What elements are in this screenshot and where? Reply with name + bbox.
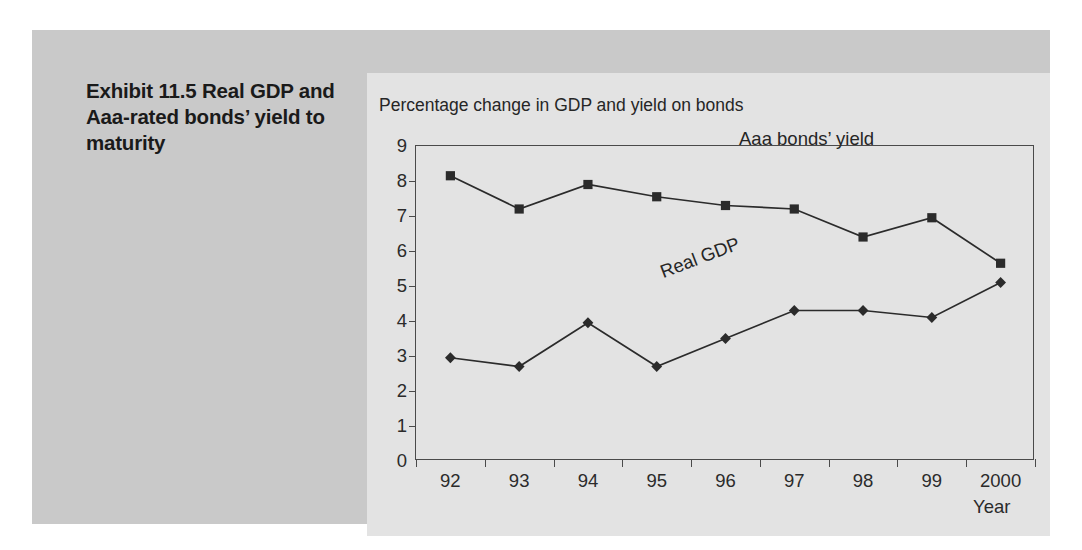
y-tick-label: 1 — [397, 417, 407, 436]
y-tick-mark — [409, 356, 416, 357]
data-point-marker — [926, 312, 937, 323]
x-tick-label: 99 — [922, 470, 943, 492]
exhibit-caption: Exhibit 11.5 Real GDP and Aaa-rated bond… — [86, 78, 351, 156]
data-point-marker — [858, 305, 869, 316]
y-tick-mark — [409, 251, 416, 252]
data-point-marker — [514, 361, 525, 372]
y-tick-mark — [409, 181, 416, 182]
x-axis-title: Year — [973, 496, 1010, 518]
data-point-marker — [720, 333, 731, 344]
data-point-marker — [995, 277, 1006, 288]
y-tick-mark — [409, 216, 416, 217]
data-point-marker — [446, 171, 455, 180]
series-real-gdp — [445, 277, 1006, 372]
data-point-marker — [789, 305, 800, 316]
chart-title: Percentage change in GDP and yield on bo… — [379, 95, 744, 116]
y-tick-label: 8 — [397, 172, 407, 191]
data-point-marker — [927, 213, 936, 222]
x-tick-mark — [829, 459, 830, 467]
x-tick-mark — [897, 459, 898, 467]
y-tick-label: 3 — [397, 347, 407, 366]
y-tick-label: 6 — [397, 242, 407, 261]
x-tick-mark — [1035, 459, 1036, 467]
x-tick-label: 96 — [715, 470, 736, 492]
x-tick-mark — [966, 459, 967, 467]
x-tick-mark — [691, 459, 692, 467]
x-tick-label: 93 — [509, 470, 530, 492]
data-point-marker — [445, 352, 456, 363]
y-tick-label: 0 — [397, 452, 407, 471]
series-label-aaa-bonds-yield: Aaa bonds’ yield — [739, 128, 874, 150]
x-tick-mark — [622, 459, 623, 467]
x-tick-label: 94 — [578, 470, 599, 492]
chart-panel: Percentage change in GDP and yield on bo… — [367, 73, 1050, 536]
data-point-marker — [583, 317, 594, 328]
plot-svg — [416, 146, 1035, 461]
y-tick-mark — [409, 321, 416, 322]
series-line — [450, 283, 1000, 367]
exhibit-panel: Exhibit 11.5 Real GDP and Aaa-rated bond… — [32, 30, 1050, 524]
x-tick-label: 95 — [646, 470, 667, 492]
x-tick-label: 97 — [784, 470, 805, 492]
y-tick-label: 4 — [397, 312, 407, 331]
x-tick-mark — [554, 459, 555, 467]
plot-area: 012345678992939495969798992000 — [415, 145, 1034, 460]
data-point-marker — [996, 259, 1005, 268]
data-point-marker — [651, 361, 662, 372]
x-tick-mark — [416, 459, 417, 467]
data-point-marker — [858, 232, 867, 241]
x-tick-label: 98 — [853, 470, 874, 492]
x-tick-mark — [760, 459, 761, 467]
data-point-marker — [515, 204, 524, 213]
y-tick-mark — [409, 391, 416, 392]
y-tick-label: 2 — [397, 382, 407, 401]
x-tick-label: 2000 — [980, 470, 1021, 492]
y-tick-label: 7 — [397, 207, 407, 226]
data-point-marker — [583, 180, 592, 189]
y-tick-mark — [409, 286, 416, 287]
data-point-marker — [652, 192, 661, 201]
y-tick-mark — [409, 426, 416, 427]
x-tick-label: 92 — [440, 470, 461, 492]
data-point-marker — [790, 204, 799, 213]
x-tick-mark — [485, 459, 486, 467]
data-point-marker — [721, 201, 730, 210]
y-tick-label: 9 — [397, 137, 407, 156]
y-tick-label: 5 — [397, 277, 407, 296]
